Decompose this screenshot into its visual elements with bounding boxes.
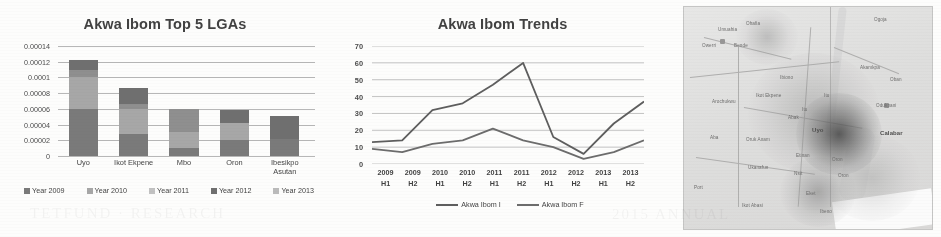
legend-label: Akwa Ibom F xyxy=(542,200,584,209)
line-chart-y-tick: 70 xyxy=(355,42,363,51)
map-place-label: Itu xyxy=(824,93,829,98)
line-chart-y-tick: 0 xyxy=(359,160,363,169)
bar-chart-y-tick: 0.00002 xyxy=(24,136,50,145)
map-place-label: Ogoja xyxy=(874,17,887,22)
map-place-label: Arochukwu xyxy=(712,99,736,104)
bar-slot xyxy=(108,46,158,156)
legend-item[interactable]: Year 2013 xyxy=(273,186,314,195)
line-chart-x-tick: 2009H2 xyxy=(399,168,426,190)
legend-item[interactable]: Akwa Ibom I xyxy=(436,200,501,209)
stacked-bar[interactable] xyxy=(270,116,299,156)
bar-chart-legend: Year 2009Year 2010Year 2011Year 2012Year… xyxy=(24,186,314,195)
line-chart-x-tick: 2011H2 xyxy=(508,168,535,190)
line-chart-y-tick: 60 xyxy=(355,58,363,67)
map-place-label: Ikot Abasi xyxy=(742,203,763,208)
map-place-label: Eket xyxy=(806,191,816,196)
bar-segment xyxy=(69,77,98,108)
map-place-label: Owerri xyxy=(702,43,716,48)
legend-item[interactable]: Year 2009 xyxy=(24,186,65,195)
map-place-label: Ibiono xyxy=(780,75,793,80)
legend-item[interactable]: Year 2010 xyxy=(87,186,128,195)
legend-label: Year 2013 xyxy=(281,186,314,195)
figure-panel-group: Akwa Ibom Top 5 LGAs 0.000140.000120.000… xyxy=(0,0,941,237)
legend-item[interactable]: Akwa Ibom F xyxy=(517,200,584,209)
bar-segment xyxy=(69,70,98,78)
bar-chart-y-tick: 0.00004 xyxy=(24,120,50,129)
bar-slot xyxy=(159,46,209,156)
line-chart-x-tick: 2010H2 xyxy=(454,168,481,190)
bar-segment xyxy=(169,148,198,156)
bar-segment xyxy=(119,134,148,156)
legend-label: Year 2010 xyxy=(95,186,128,195)
bar-segment xyxy=(69,109,98,156)
stacked-bar[interactable] xyxy=(69,60,98,156)
bar-chart-x-tick: Oron xyxy=(209,158,259,177)
map-place-label: Port xyxy=(694,185,703,190)
bar-chart-y-axis: 0.000140.000120.00010.000080.000060.0000… xyxy=(0,46,54,156)
line-chart-title: Akwa Ibom Trends xyxy=(330,0,675,32)
line-chart-panel: Akwa Ibom Trends 706050403020100 2009H12… xyxy=(330,0,675,237)
gridline xyxy=(58,156,315,157)
bar-segment xyxy=(119,88,148,104)
map-place-label: Oban xyxy=(890,77,902,82)
bar-segment xyxy=(220,123,249,140)
stacked-bar[interactable] xyxy=(220,110,249,156)
legend-line-icon xyxy=(436,204,458,206)
map-place-label: Ukanafun xyxy=(748,165,768,170)
legend-label: Year 2009 xyxy=(32,186,65,195)
legend-swatch-icon xyxy=(87,188,93,194)
legend-item[interactable]: Year 2012 xyxy=(211,186,252,195)
line-chart-x-tick: 2010H1 xyxy=(426,168,453,190)
map-place-label: Oron xyxy=(832,157,843,162)
legend-label: Akwa Ibom I xyxy=(461,200,501,209)
bar-segment xyxy=(169,132,198,148)
bar-slot xyxy=(209,46,259,156)
bar-chart-x-tick: Mbo xyxy=(159,158,209,177)
bar-segment xyxy=(69,60,98,70)
bar-chart-y-tick: 0.0001 xyxy=(28,73,50,82)
map-place-label: Oron xyxy=(838,173,849,178)
line-chart-gridlines xyxy=(372,46,644,164)
density-map-panel: CalabarUyoItuIkot EkpeneAbakOronEketIbio… xyxy=(675,0,941,237)
line-chart-x-tick: 2011H1 xyxy=(481,168,508,190)
map-place-label: Itu xyxy=(802,107,807,112)
map-place-label: Bende xyxy=(734,43,748,48)
bar-chart-x-tick: Uyo xyxy=(58,158,108,177)
bar-chart-panel: Akwa Ibom Top 5 LGAs 0.000140.000120.000… xyxy=(0,0,330,237)
map-basemap: CalabarUyoItuIkot EkpeneAbakOronEketIbio… xyxy=(684,7,932,229)
map-place-label: Odukpani xyxy=(876,103,896,108)
bar-slot xyxy=(58,46,108,156)
bar-chart-y-tick: 0 xyxy=(46,152,50,161)
line-chart-x-tick: 2012H1 xyxy=(535,168,562,190)
stacked-bar[interactable] xyxy=(119,88,148,156)
line-chart-y-axis: 706050403020100 xyxy=(330,46,368,164)
bar-slot xyxy=(260,46,310,156)
legend-swatch-icon xyxy=(273,188,279,194)
line-chart-y-tick: 20 xyxy=(355,126,363,135)
legend-item[interactable]: Year 2011 xyxy=(149,186,189,195)
legend-swatch-icon xyxy=(149,188,155,194)
bar-segment xyxy=(270,139,299,156)
bar-segment xyxy=(119,109,148,134)
line-series-path[interactable] xyxy=(372,63,644,154)
bar-segment xyxy=(270,116,299,139)
line-chart-y-tick: 40 xyxy=(355,92,363,101)
map-place-label: Aba xyxy=(710,135,718,140)
bar-segment xyxy=(220,110,249,123)
line-chart-x-tick: 2013H2 xyxy=(617,168,644,190)
line-chart-x-tick: 2013H1 xyxy=(590,168,617,190)
line-chart-x-axis: 2009H12009H22010H12010H22011H12011H22012… xyxy=(372,168,644,190)
line-chart-x-tick: 2012H2 xyxy=(562,168,589,190)
bar-chart-x-tick: IbesikpoAsutan xyxy=(260,158,310,177)
legend-swatch-icon xyxy=(211,188,217,194)
line-chart-x-tick: 2009H1 xyxy=(372,168,399,190)
map-state-border xyxy=(830,7,831,207)
map-place-label: Nsit xyxy=(794,171,802,176)
bar-segment xyxy=(220,140,249,156)
bar-chart-plot-area xyxy=(58,46,310,156)
map-place-label: Abak xyxy=(788,115,799,120)
stacked-bar[interactable] xyxy=(169,109,198,156)
map-place-label: Etinan xyxy=(796,153,810,158)
line-chart-plot-area xyxy=(372,46,644,164)
legend-line-icon xyxy=(517,204,539,206)
